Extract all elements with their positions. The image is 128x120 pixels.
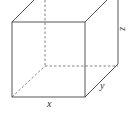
- box-diagram: x y z: [0, 0, 128, 120]
- bottom-left-depth-edge: [12, 66, 45, 97]
- label-y: y: [99, 80, 105, 91]
- front-face: [12, 22, 85, 97]
- top-left-depth-edge: [12, 0, 45, 22]
- top-right-depth-edge: [85, 0, 118, 22]
- label-x: x: [46, 98, 52, 109]
- label-z: z: [118, 26, 128, 31]
